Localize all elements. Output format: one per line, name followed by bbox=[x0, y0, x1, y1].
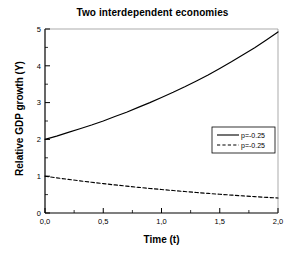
y-tick-label: 5 bbox=[37, 25, 41, 34]
y-tick-label: 0 bbox=[37, 209, 41, 218]
series-line-0 bbox=[45, 32, 278, 139]
legend-label-0: p=-0.25 bbox=[241, 132, 265, 140]
x-tick-label: 2,0 bbox=[273, 217, 283, 226]
axis-ticks: 0,00,51,01,52,0012345 bbox=[37, 25, 283, 226]
legend: p=-0.25 p=-0.25 bbox=[212, 127, 275, 153]
y-tick-label: 4 bbox=[37, 62, 41, 71]
axes-frame bbox=[45, 29, 278, 213]
y-tick-label: 3 bbox=[37, 98, 41, 107]
x-tick-label: 0,0 bbox=[40, 217, 50, 226]
plot-area: 0,00,51,01,52,0012345 p=-0.25 p=-0.25 bbox=[0, 0, 305, 261]
x-tick-label: 1,0 bbox=[156, 217, 166, 226]
chart-figure: Two interdependent economies Relative GD… bbox=[0, 0, 305, 261]
legend-label-1: p=-0.25 bbox=[241, 142, 265, 150]
data-curves bbox=[45, 32, 278, 198]
y-tick-label: 2 bbox=[37, 135, 41, 144]
x-tick-label: 1,5 bbox=[215, 217, 225, 226]
series-line-1 bbox=[45, 176, 278, 198]
y-tick-label: 1 bbox=[37, 172, 41, 181]
x-tick-label: 0,5 bbox=[98, 217, 108, 226]
